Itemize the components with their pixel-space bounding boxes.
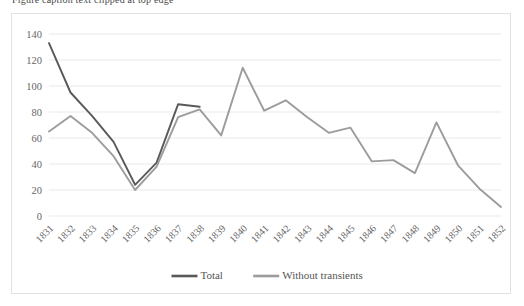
y-axis-tick-label: 120: [26, 55, 42, 66]
series-line-without-transients: [49, 68, 501, 207]
x-axis-tick-label: 1834: [98, 223, 120, 245]
y-axis-tick-label: 60: [32, 133, 43, 144]
x-axis-tick-label: 1833: [76, 223, 98, 245]
x-axis-tick-label: 1846: [356, 223, 378, 245]
x-axis-tick-label: 1836: [141, 223, 163, 245]
x-axis-tick-label: 1837: [163, 223, 185, 245]
y-axis-tick-label: 40: [32, 159, 43, 170]
legend-label: Total: [200, 269, 222, 281]
chart-frame: 020406080100120140 183118321833183418351…: [11, 13, 511, 294]
x-axis-tick-label: 1847: [378, 223, 400, 245]
x-axis-tick-label: 1852: [485, 223, 507, 245]
y-axis-tick-label: 0: [37, 211, 42, 222]
gridlines: [49, 34, 501, 216]
y-axis-tick-label: 80: [32, 107, 43, 118]
x-axis-tick-label: 1839: [206, 223, 228, 245]
y-axis-tick-label: 100: [26, 81, 42, 92]
x-axis-tick-label: 1832: [55, 223, 77, 245]
x-axis-tick-label: 1831: [33, 223, 55, 245]
x-axis-tick-label: 1835: [120, 223, 142, 245]
chart-legend: TotalWithout transients: [171, 269, 362, 281]
x-axis-tick-label: 1843: [292, 223, 314, 245]
chart-svg: 020406080100120140 183118321833183418351…: [12, 14, 512, 295]
line-chart: 020406080100120140 183118321833183418351…: [12, 14, 512, 295]
x-axis-tick-labels: 1831183218331834183518361837183818391840…: [33, 223, 507, 245]
x-axis-tick-label: 1838: [184, 223, 206, 245]
x-axis-tick-label: 1842: [270, 223, 292, 245]
x-axis-tick-label: 1840: [227, 223, 249, 245]
x-axis-tick-label: 1850: [442, 223, 464, 245]
x-axis-tick-label: 1841: [249, 223, 271, 245]
y-axis-tick-label: 20: [32, 185, 43, 196]
clipped-figure-caption: Figure caption text clipped at top edge: [12, 0, 342, 5]
y-axis-tick-labels: 020406080100120140: [26, 29, 42, 222]
y-axis-tick-label: 140: [26, 29, 42, 40]
x-axis-tick-label: 1844: [313, 223, 335, 245]
x-axis-tick-label: 1848: [399, 223, 421, 245]
x-axis-tick-label: 1845: [335, 223, 357, 245]
data-series: [49, 43, 501, 207]
legend-label: Without transients: [282, 269, 363, 281]
x-axis-tick-label: 1851: [464, 223, 486, 245]
x-axis-tick-label: 1849: [421, 223, 443, 245]
